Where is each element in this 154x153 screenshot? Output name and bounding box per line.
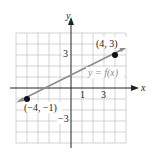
x-tick-3: 3	[101, 89, 106, 100]
point-label-4-3: (4, 3)	[96, 38, 118, 50]
function-label: y = f(x)	[87, 67, 119, 79]
y-axis-label: y	[65, 10, 71, 21]
x-axis-label: x	[140, 82, 146, 93]
y-tick-3: 3	[63, 48, 68, 59]
point-4-3	[112, 52, 118, 58]
point-label-neg4-neg1: (−4, −1)	[24, 102, 57, 114]
x-tick-1: 1	[80, 89, 85, 100]
function-graph: y x 3 −3 1 3 (4, 3) (−4, −1) y = f(x)	[0, 0, 154, 153]
x-axis-arrow-icon	[131, 85, 139, 91]
y-tick-neg3: −3	[58, 113, 69, 124]
